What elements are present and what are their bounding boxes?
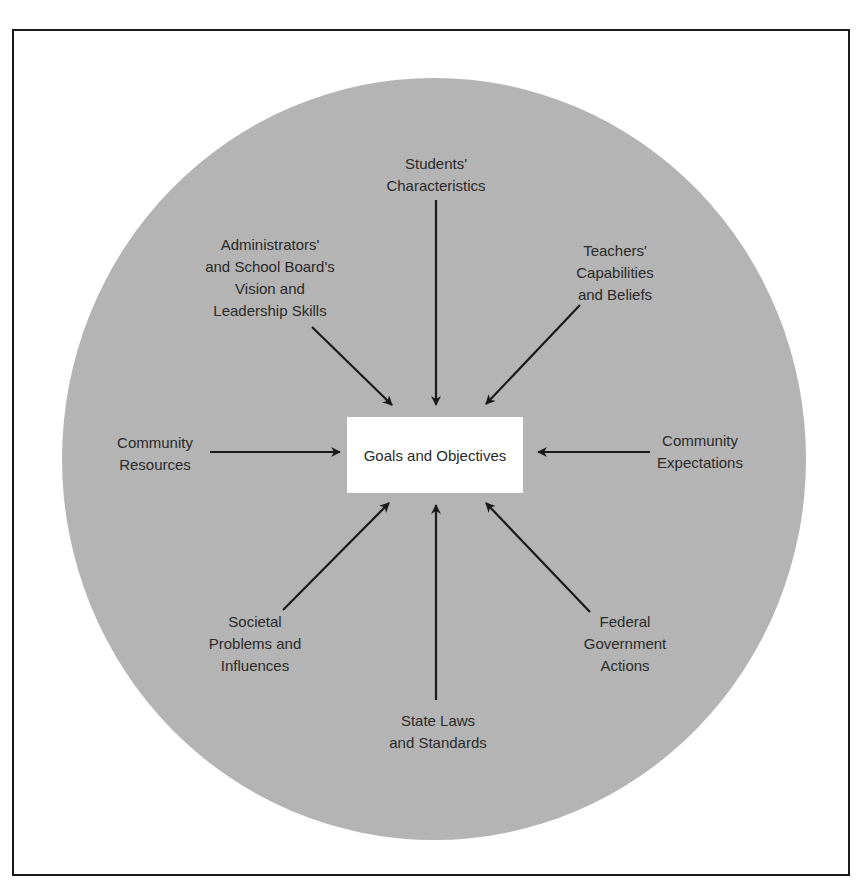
goals-and-objectives-box: Goals and Objectives — [347, 417, 523, 493]
label-societal: Societal Problems and Influences — [180, 611, 330, 677]
label-community-expectations: Community Expectations — [630, 430, 770, 474]
label-students: Students' Characteristics — [356, 153, 516, 197]
label-state: State Laws and Standards — [358, 710, 518, 754]
label-administrators: Administrators' and School Board's Visio… — [175, 234, 365, 322]
label-community-resources: Community Resources — [95, 432, 215, 476]
arrow-teachers — [486, 305, 580, 404]
label-teachers: Teachers' Capabilities and Beliefs — [530, 240, 700, 306]
center-label: Goals and Objectives — [364, 447, 507, 464]
arrow-administrators — [312, 327, 392, 405]
arrow-societal — [283, 503, 389, 610]
arrow-federal — [486, 503, 590, 612]
label-federal: Federal Government Actions — [550, 611, 700, 677]
